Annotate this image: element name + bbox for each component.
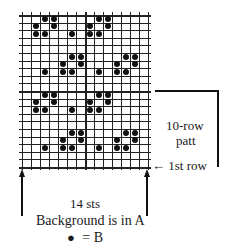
grid-column-line xyxy=(130,12,131,170)
contrast-stitch-dot xyxy=(132,130,138,136)
contrast-stitch-dot xyxy=(33,99,39,105)
contrast-stitch-dot xyxy=(123,54,129,60)
contrast-stitch-dot xyxy=(96,31,102,37)
grid-column-line xyxy=(58,12,59,170)
grid-column-line xyxy=(94,12,95,170)
contrast-stitch-dot xyxy=(114,61,120,67)
contrast-stitch-dot xyxy=(114,145,120,151)
contrast-stitch-dot xyxy=(78,54,84,60)
contrast-stitch-dot xyxy=(96,69,102,75)
contrast-stitch-dot xyxy=(69,145,75,151)
contrast-stitch-dot xyxy=(42,107,48,113)
contrast-stitch-dot xyxy=(51,16,57,22)
contrast-stitch-dot xyxy=(69,31,75,37)
contrast-stitch-dot xyxy=(132,54,138,60)
grid-column-line xyxy=(49,12,50,170)
contrast-stitch-dot xyxy=(60,69,66,75)
repeat-label-line1: 10-row xyxy=(166,118,204,134)
legend-row: ● = B xyxy=(67,230,103,246)
contrast-stitch-dot xyxy=(105,23,111,29)
contrast-stitch-dot xyxy=(42,92,48,98)
contrast-stitch-dot xyxy=(96,92,102,98)
grid-column-line xyxy=(40,12,41,170)
contrast-stitch-dot xyxy=(69,54,75,60)
contrast-stitch-dot xyxy=(42,145,48,151)
contrast-stitch-dot xyxy=(123,69,129,75)
contrast-stitch-dot xyxy=(78,137,84,143)
right-arrowhead-icon xyxy=(144,169,150,177)
left-arrowhead-icon xyxy=(19,169,25,177)
grid-column-line xyxy=(148,12,149,170)
contrast-stitch-dot xyxy=(87,99,93,105)
contrast-stitch-dot xyxy=(69,69,75,75)
contrast-stitch-dot xyxy=(123,145,129,151)
contrast-stitch-dot xyxy=(60,61,66,67)
contrast-stitch-dot xyxy=(96,16,102,22)
legend-equals-b: = B xyxy=(82,230,103,245)
grid-column-line xyxy=(112,12,113,170)
contrast-stitch-dot xyxy=(105,99,111,105)
contrast-stitch-dot xyxy=(105,16,111,22)
stitch-count-label: 14 sts xyxy=(70,196,100,212)
grid-column-line xyxy=(76,12,77,170)
contrast-stitch-dot xyxy=(33,23,39,29)
contrast-stitch-dot xyxy=(114,69,120,75)
right-stitch-arrow xyxy=(146,176,148,216)
repeat-bracket-top xyxy=(155,90,218,92)
contrast-stitch-dot xyxy=(42,31,48,37)
grid-column-line xyxy=(67,12,68,170)
contrast-stitch-dot xyxy=(78,61,84,67)
contrast-stitch-dot xyxy=(42,16,48,22)
contrast-stitch-dot xyxy=(69,130,75,136)
grid-column-line xyxy=(85,12,87,170)
grid-column-line xyxy=(31,12,32,170)
contrast-stitch-dot xyxy=(114,137,120,143)
knitting-chart-grid xyxy=(22,15,148,167)
contrast-stitch-dot xyxy=(87,23,93,29)
contrast-stitch-dot xyxy=(51,23,57,29)
contrast-stitch-dot xyxy=(105,92,111,98)
contrast-stitch-dot xyxy=(51,99,57,105)
left-stitch-arrow xyxy=(21,176,23,216)
contrast-stitch-dot xyxy=(69,107,75,113)
contrast-stitch-dot xyxy=(87,107,93,113)
contrast-stitch-dot xyxy=(96,107,102,113)
grid-column-line xyxy=(121,12,122,170)
contrast-stitch-dot xyxy=(87,31,93,37)
grid-column-line xyxy=(103,12,104,170)
contrast-stitch-dot xyxy=(33,31,39,37)
grid-column-line xyxy=(139,12,140,170)
repeat-label-line2: patt xyxy=(176,133,196,149)
first-row-label: ← 1st row xyxy=(152,158,207,174)
contrast-stitch-dot xyxy=(123,130,129,136)
contrast-stitch-dot xyxy=(132,137,138,143)
contrast-stitch-dot xyxy=(96,145,102,151)
contrast-stitch-dot xyxy=(60,137,66,143)
contrast-stitch-dot xyxy=(60,145,66,151)
background-color-note: Background is in A xyxy=(36,213,145,229)
contrast-stitch-dot xyxy=(132,61,138,67)
contrast-stitch-dot xyxy=(51,92,57,98)
contrast-stitch-dot xyxy=(78,130,84,136)
grid-column-line xyxy=(22,12,23,170)
legend-dot-icon: ● xyxy=(67,230,75,245)
contrast-stitch-dot xyxy=(42,69,48,75)
contrast-stitch-dot xyxy=(33,107,39,113)
repeat-bracket-side xyxy=(217,90,219,167)
